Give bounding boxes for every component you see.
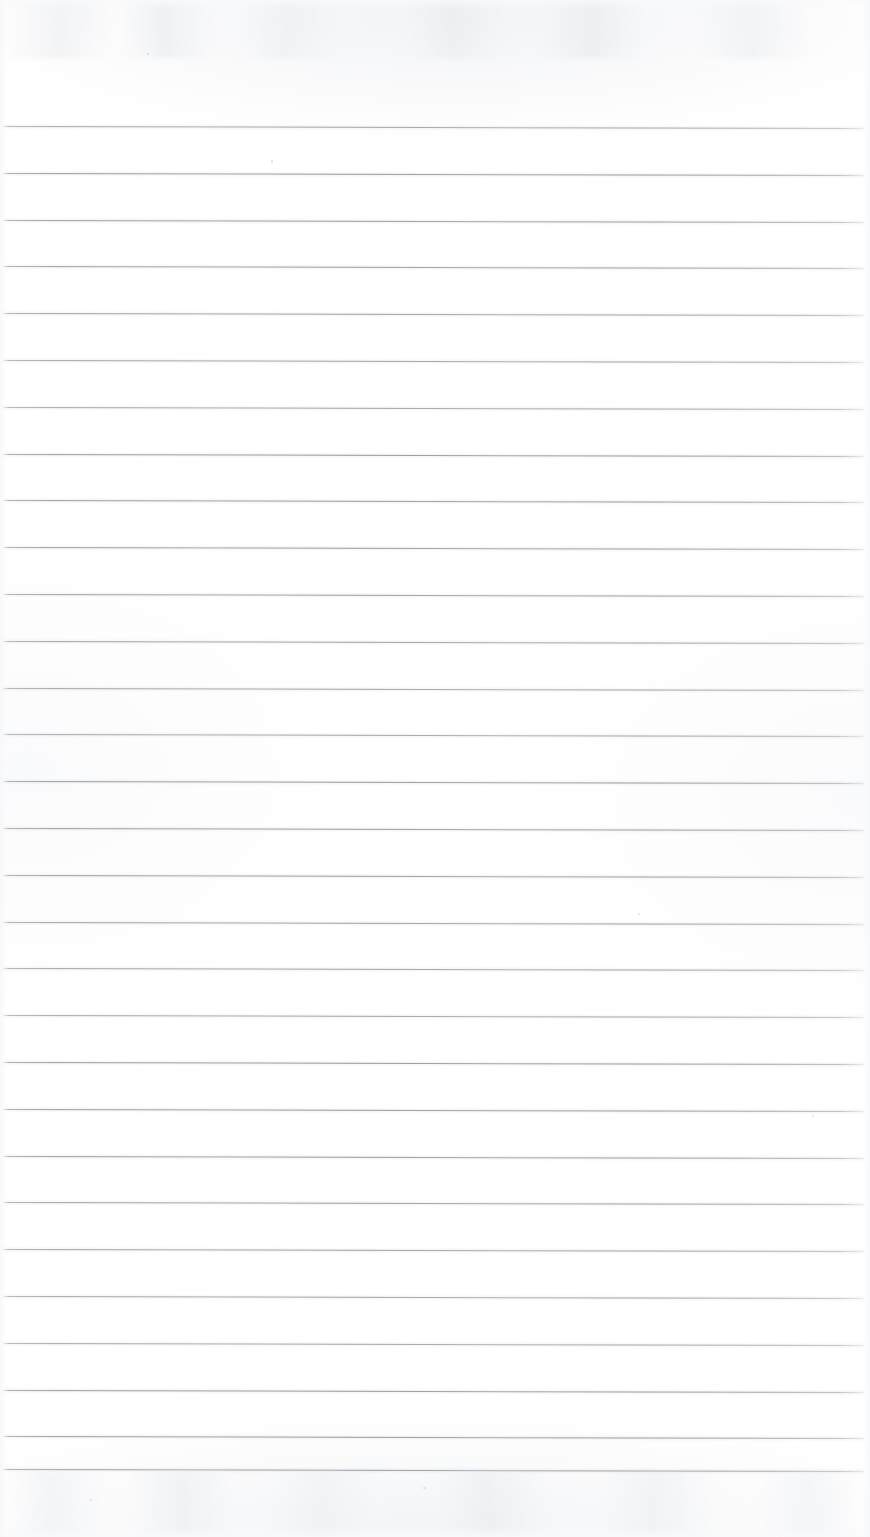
ruled-line bbox=[3, 547, 864, 550]
scanned-page bbox=[0, 0, 870, 1537]
ruled-line bbox=[3, 968, 864, 971]
ruled-line bbox=[3, 1390, 864, 1393]
ruled-line bbox=[3, 1015, 864, 1018]
ruled-line bbox=[3, 1109, 864, 1112]
ruled-line bbox=[3, 734, 864, 737]
ruled-line bbox=[3, 500, 864, 503]
ruled-line bbox=[3, 126, 864, 129]
ruled-line bbox=[3, 781, 864, 784]
ruled-line bbox=[3, 220, 864, 223]
ruled-line bbox=[3, 922, 864, 925]
ruled-line bbox=[3, 1249, 864, 1252]
ruled-lines-group bbox=[0, 0, 870, 1537]
ruled-line bbox=[3, 1343, 864, 1346]
ruled-line bbox=[3, 641, 864, 644]
ruled-line bbox=[3, 1436, 864, 1439]
ruled-line bbox=[3, 688, 864, 691]
ruled-line bbox=[3, 360, 864, 363]
ruled-line bbox=[3, 1202, 864, 1205]
ruled-line bbox=[3, 313, 864, 316]
ruled-line bbox=[3, 875, 864, 878]
ruled-line bbox=[3, 454, 864, 457]
ruled-line bbox=[3, 828, 864, 831]
ruled-line bbox=[3, 1156, 864, 1159]
ruled-line bbox=[3, 266, 864, 269]
ruled-line bbox=[3, 173, 864, 176]
ruled-line bbox=[3, 1062, 864, 1065]
ruled-line bbox=[3, 1469, 864, 1472]
ruled-line bbox=[3, 594, 864, 597]
ruled-line bbox=[3, 1296, 864, 1299]
ruled-line bbox=[3, 407, 864, 410]
